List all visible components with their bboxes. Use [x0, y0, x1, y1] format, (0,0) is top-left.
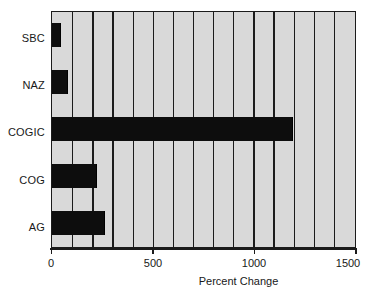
y-axis-label-ag: AG [29, 222, 45, 233]
bar-cog [52, 164, 97, 188]
x-axis-tick [152, 248, 154, 254]
x-axis-tick [355, 248, 357, 254]
x-axis-tick [254, 248, 256, 254]
x-axis-tick-label-1500: 1500 [336, 257, 360, 269]
x-axis-title: Percent Change [0, 275, 373, 287]
bar-ag [52, 211, 105, 235]
x-axis-line [50, 248, 357, 250]
y-axis-label-cogic: COGIC [8, 127, 45, 138]
x-axis-title-text: Percent Change [199, 275, 279, 287]
y-axis-category-labels: SBC NAZ COGIC COG AG [0, 0, 45, 301]
x-axis-tick [51, 248, 53, 254]
bars-group [52, 12, 355, 247]
bar-chart: SBC NAZ COGIC COG AG 0 500 1000 1500 Per… [0, 0, 373, 301]
y-axis-label-cog: COG [19, 175, 45, 186]
plot-area [51, 11, 356, 248]
y-axis-label-sbc: SBC [22, 33, 45, 44]
bar-sbc [52, 23, 61, 47]
bar-naz [52, 70, 68, 94]
bar-cogic [52, 117, 293, 141]
y-axis-label-naz: NAZ [22, 80, 45, 91]
x-axis-tick-label-1000: 1000 [242, 257, 266, 269]
x-axis-tick-label-0: 0 [48, 257, 54, 269]
x-axis-tick-label-500: 500 [144, 257, 162, 269]
